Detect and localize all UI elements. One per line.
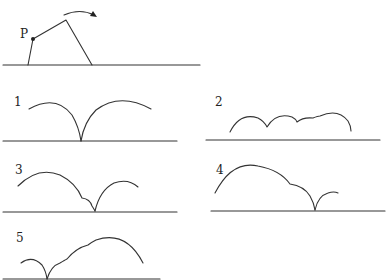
trajectory-arc xyxy=(29,103,81,141)
option-5: 5 xyxy=(3,231,160,279)
trajectory-arc xyxy=(47,238,143,279)
trajectory-arc xyxy=(18,172,95,211)
main-figure: P xyxy=(3,11,200,65)
option-4: 4 xyxy=(211,163,385,211)
trajectory-arc xyxy=(215,165,315,210)
point-p xyxy=(31,37,35,41)
trajectory-arc xyxy=(95,181,138,211)
option-2: 2 xyxy=(206,95,380,140)
diagram: P 1 2 3 4 5 xyxy=(0,0,388,280)
trajectory-arc xyxy=(315,192,338,210)
option-4-label: 4 xyxy=(216,163,224,177)
option-2-label: 2 xyxy=(215,95,223,109)
option-3-label: 3 xyxy=(15,163,23,177)
rotation-arrow-icon xyxy=(64,12,94,16)
option-1: 1 xyxy=(3,95,177,141)
option-1-label: 1 xyxy=(14,95,22,109)
option-3: 3 xyxy=(3,163,177,212)
trajectory-arc xyxy=(81,101,151,141)
point-p-label: P xyxy=(20,27,28,41)
trajectory-curve xyxy=(230,113,351,132)
trajectory-arc xyxy=(21,259,47,279)
rolling-shape xyxy=(28,20,92,65)
option-5-label: 5 xyxy=(16,231,24,245)
